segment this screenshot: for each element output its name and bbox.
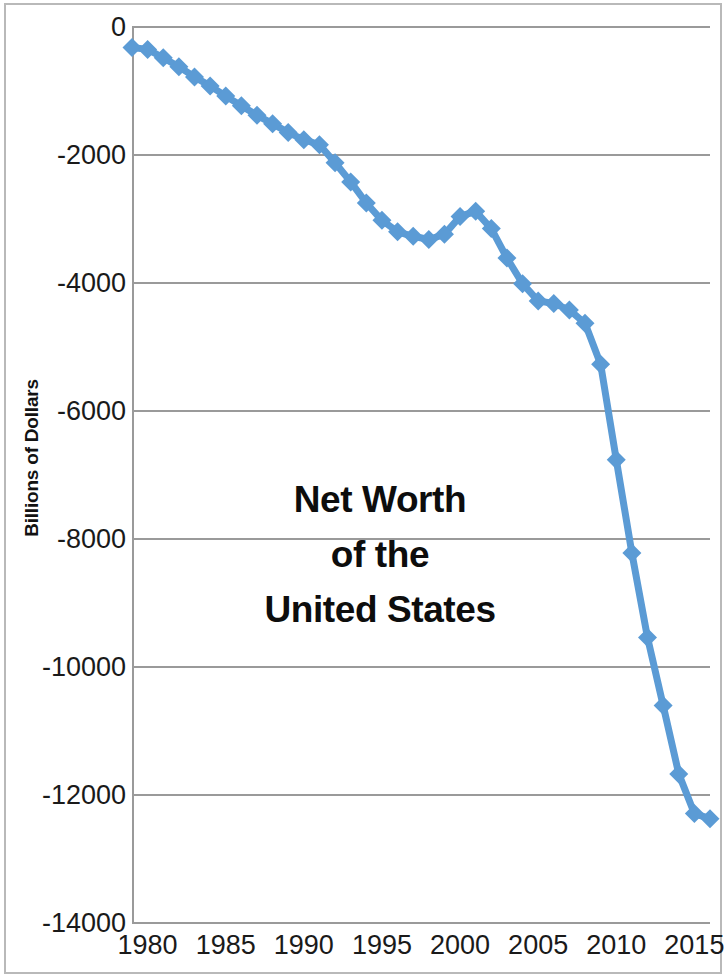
data-point-marker — [638, 628, 657, 647]
data-point-marker — [669, 764, 688, 783]
data-point-marker — [622, 544, 641, 563]
y-axis-tick-labels: 0-2000-4000-6000-8000-10000-12000-14000 — [0, 0, 126, 977]
x-tick-label: 2015 — [639, 930, 726, 961]
plot-area — [132, 27, 710, 923]
y-tick-label: -12000 — [4, 780, 126, 811]
data-point-marker — [404, 227, 423, 246]
y-tick-label: 0 — [4, 12, 126, 43]
y-tick-label: -10000 — [4, 652, 126, 683]
series-line — [132, 47, 710, 818]
y-tick-label: -2000 — [4, 140, 126, 171]
data-point-marker — [654, 696, 673, 715]
data-point-marker — [607, 450, 626, 469]
data-point-marker — [685, 804, 704, 823]
x-axis-tick-labels: 19801985199019952000200520102015 — [132, 930, 710, 976]
data-point-marker — [419, 230, 438, 249]
net-worth-line-series — [132, 27, 710, 923]
y-tick-label: -4000 — [4, 268, 126, 299]
data-point-marker — [591, 355, 610, 374]
chart-figure: Billions of Dollars 0-2000-4000-6000-800… — [0, 0, 726, 977]
y-tick-label: -8000 — [4, 524, 126, 555]
y-tick-label: -6000 — [4, 396, 126, 427]
data-point-marker — [701, 809, 720, 828]
